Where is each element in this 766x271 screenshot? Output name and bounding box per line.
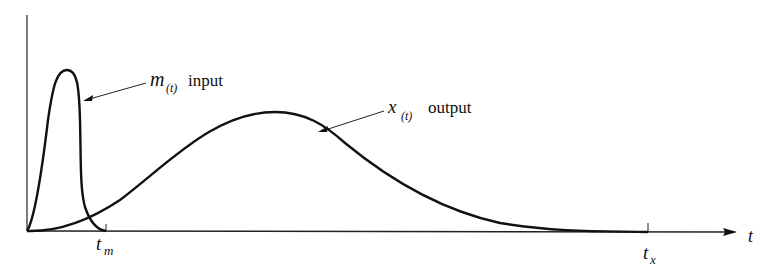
t-x-label: t x bbox=[643, 242, 656, 267]
diagram-canvas: m (t) input x (t) output t t m t x bbox=[0, 0, 766, 271]
x-axis-label: t bbox=[748, 226, 754, 246]
svg-text:m: m bbox=[104, 243, 113, 258]
t-m-label: t m bbox=[96, 233, 113, 258]
svg-text:(t): (t) bbox=[166, 81, 177, 95]
svg-text:x: x bbox=[649, 252, 656, 267]
input-leader bbox=[86, 83, 146, 100]
output-leader bbox=[322, 111, 384, 131]
input-leader-arrow-icon bbox=[83, 95, 93, 101]
output-label: x (t) output bbox=[387, 96, 472, 123]
input-curve bbox=[27, 70, 106, 231]
svg-text:t: t bbox=[96, 233, 102, 254]
svg-text:t: t bbox=[643, 242, 649, 263]
svg-text:m: m bbox=[150, 68, 164, 90]
svg-text:x: x bbox=[387, 96, 397, 117]
svg-text:output: output bbox=[428, 98, 472, 117]
input-label: m (t) input bbox=[150, 68, 223, 95]
output-curve bbox=[27, 112, 648, 232]
svg-text:input: input bbox=[188, 71, 223, 90]
svg-text:(t): (t) bbox=[401, 109, 412, 123]
x-axis-arrow-icon bbox=[723, 228, 737, 236]
